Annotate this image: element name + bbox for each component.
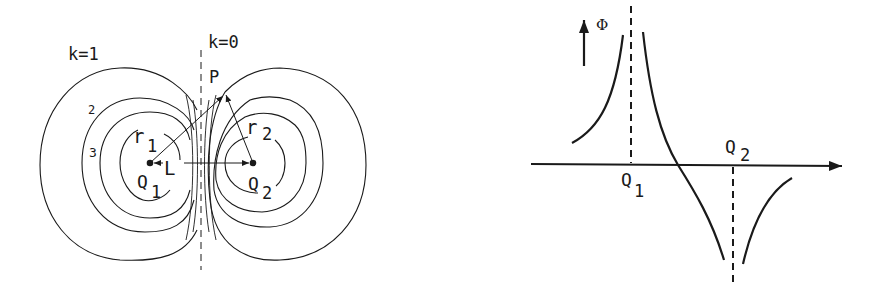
label-k0: k=0 bbox=[208, 32, 239, 52]
label-q1-subscript: 1 bbox=[151, 182, 161, 202]
label-r1: r bbox=[133, 125, 144, 147]
label-axis-q2-subscript: 2 bbox=[740, 145, 750, 165]
label-axis-q2: Q bbox=[725, 136, 736, 157]
label-contour-3: 3 bbox=[89, 145, 97, 160]
potential-curve-middle bbox=[643, 32, 724, 260]
label-q1: Q bbox=[137, 171, 148, 192]
label-k1: k=1 bbox=[68, 44, 99, 64]
label-axis-q1: Q bbox=[621, 169, 632, 190]
x-axis bbox=[531, 164, 842, 166]
charge-q1-dot bbox=[147, 160, 154, 167]
label-contour-2: 2 bbox=[88, 103, 95, 117]
equipotential-diagram bbox=[40, 50, 366, 270]
contour-q2-inner-right bbox=[275, 140, 285, 186]
label-axis-q1-subscript: 1 bbox=[634, 181, 644, 201]
label-r2-subscript: 2 bbox=[262, 124, 272, 144]
contour-q1-k3 bbox=[100, 112, 190, 218]
contour-q2-k2 bbox=[214, 97, 323, 227]
label-point-p: P bbox=[209, 67, 219, 87]
label-phi: Φ bbox=[596, 16, 608, 34]
label-q2: Q bbox=[248, 173, 259, 194]
potential-plot bbox=[531, 6, 842, 285]
label-q2-subscript: 2 bbox=[262, 183, 272, 203]
charge-q2-dot bbox=[250, 160, 257, 167]
contour-q1-k2 bbox=[82, 98, 194, 232]
label-r2: r bbox=[246, 116, 257, 138]
label-L: L bbox=[164, 157, 175, 179]
label-r1-subscript: 1 bbox=[147, 136, 157, 156]
potential-curve-left bbox=[572, 35, 623, 143]
figure: k=1 k=0 2 3 P r 1 r 2 L Q 1 Q 2 Φ Q 1 Q … bbox=[0, 0, 877, 298]
potential-curve-right bbox=[743, 178, 792, 264]
contour-q2-k1 bbox=[208, 68, 366, 260]
